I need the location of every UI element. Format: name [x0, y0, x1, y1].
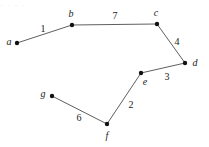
edge-weight-f-g: 6: [77, 113, 82, 123]
node-label-f: f: [106, 131, 109, 141]
node-label-a: a: [7, 37, 12, 47]
node-label-e: e: [143, 77, 147, 87]
node-label-c: c: [154, 8, 158, 18]
graph-node-a: [15, 41, 19, 45]
edge-weight-e-f: 2: [129, 100, 134, 110]
graph-node-e: [139, 71, 143, 75]
graph-node-d: [183, 61, 187, 65]
graph-diagram-figure: · · · · abcdefg174326: [0, 0, 209, 147]
graph-edge-e-f: [107, 73, 141, 124]
node-label-b: b: [69, 9, 74, 19]
edge-weight-c-d: 4: [175, 37, 180, 47]
edge-weight-b-c: 7: [113, 11, 118, 21]
graph-canvas: [0, 0, 209, 147]
node-label-d: d: [193, 58, 198, 68]
nodes-group: [15, 22, 187, 126]
graph-edge-c-d: [157, 24, 185, 63]
edges-group: [17, 24, 185, 124]
edge-weight-d-e: 3: [165, 72, 170, 82]
graph-node-f: [105, 122, 109, 126]
graph-edge-b-c: [72, 24, 157, 25]
graph-node-c: [155, 22, 159, 26]
edge-weight-a-b: 1: [41, 24, 46, 34]
graph-node-b: [70, 23, 74, 27]
graph-edge-d-e: [141, 63, 185, 73]
graph-node-g: [50, 94, 54, 98]
node-label-g: g: [41, 89, 46, 99]
